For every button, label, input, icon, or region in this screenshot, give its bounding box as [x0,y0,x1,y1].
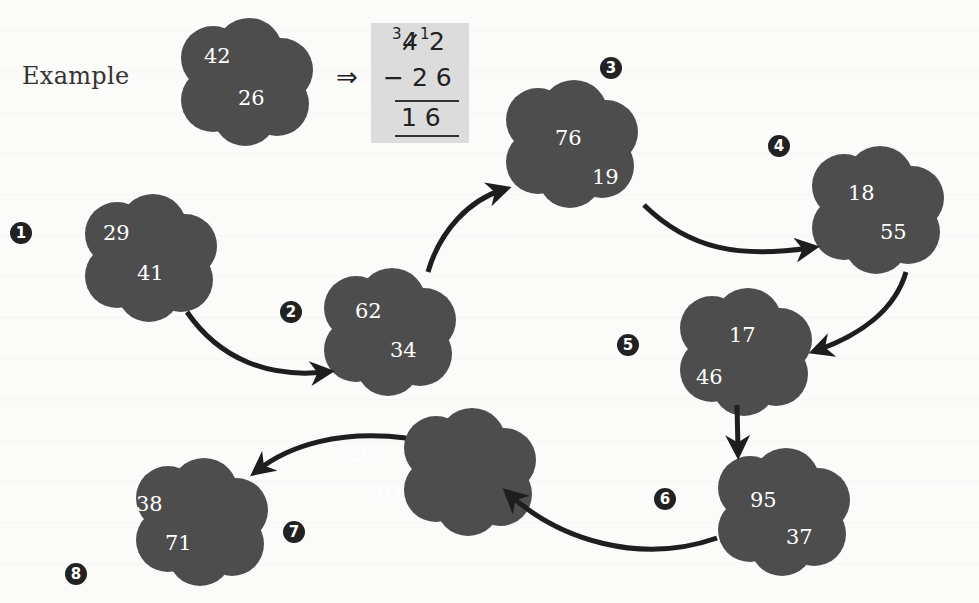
arrow-3-to-4 [644,205,810,252]
arrow-6-to-7 [510,495,717,549]
problem-7-top-number: 26 [348,444,375,465]
borrow-tens-digit: 3 [392,25,402,43]
problem-2-top-number: 62 [355,301,382,322]
arrow-7-to-8 [258,436,406,470]
problem-badge-6: 6 [654,488,676,510]
cloud-2 [324,268,456,396]
problem-badge-1: 1 [10,222,32,244]
cloud-4 [812,146,944,274]
struck-tens-digit: 4 [402,27,418,56]
cloud-7 [404,408,536,536]
problem-6-top-number: 95 [750,490,777,511]
work-result-row: 1 6 [401,103,499,132]
problem-badge-2: 2 [280,301,302,323]
problem-badge-4: 4 [768,135,790,157]
cloud-8 [136,458,268,586]
problem-8-top-number: 38 [136,494,163,515]
example-worked-subtraction: 3 4 1 2 − 2 6 1 6 [371,23,469,143]
problem-4-bottom-number: 55 [880,222,907,243]
work-subtrahend-row: − 2 6 [383,63,481,92]
problem-8-bottom-number: 71 [165,533,192,554]
cloud-6 [718,448,850,576]
arrow-4-to-5 [818,272,906,350]
work-rule-bottom [395,135,459,137]
problem-2-bottom-number: 34 [390,340,417,361]
problem-badge-5: 5 [617,334,639,356]
problem-5-top-number: 17 [729,325,756,346]
problem-badge-8: 8 [65,563,87,585]
example-bottom-number: 26 [238,88,265,109]
arrow-2-to-3 [428,190,502,272]
problem-3-top-number: 76 [555,128,582,149]
problem-3-bottom-number: 19 [592,167,619,188]
cloud-5 [680,288,812,416]
problem-5-bottom-number: 46 [696,367,723,388]
example-label: Example [22,62,129,90]
problem-4-top-number: 18 [848,183,875,204]
example-top-number: 42 [204,46,231,67]
problem-1-top-number: 29 [103,223,130,244]
work-rule-top [395,100,459,102]
problem-6-bottom-number: 37 [786,527,813,548]
example-cloud [181,18,313,146]
arrow-5-to-6 [737,405,738,450]
problem-7-bottom-number: 61 [378,484,405,505]
cloud-1 [85,194,217,322]
ones-digit: 2 [429,27,445,56]
arrow-1-to-2 [187,312,325,373]
problem-1-bottom-number: 41 [137,263,164,284]
problem-badge-3: 3 [600,57,622,79]
implies-arrow-icon: ⇒ [336,62,358,92]
problem-badge-7: 7 [283,521,305,543]
